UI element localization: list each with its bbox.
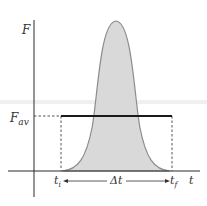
average-force-label: Fav: [9, 111, 29, 127]
impulse-diagram: F Fav ti Δt tf t: [0, 0, 207, 206]
t-final-sub: f: [173, 180, 178, 189]
arrow-left-icon: [63, 179, 68, 183]
avg-force-sub: av: [18, 117, 28, 127]
t-initial-label: ti: [54, 174, 61, 189]
y-axis-label: F: [21, 23, 31, 37]
interval-label: Δt: [109, 174, 123, 187]
t-final-label: tf: [170, 174, 178, 189]
x-axis-label: t: [189, 174, 194, 187]
t-initial-sub: i: [58, 180, 61, 189]
force-curve: [62, 21, 170, 171]
